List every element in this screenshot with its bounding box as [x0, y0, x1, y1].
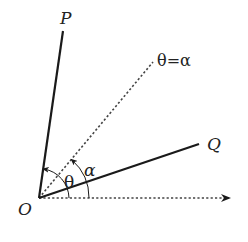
label-theta: θ: [64, 172, 74, 192]
label-O: O: [18, 199, 32, 219]
line-OQ: [39, 144, 199, 198]
label-ray: θ=α: [157, 51, 191, 70]
label-alpha: α: [84, 160, 96, 180]
label-P: P: [59, 8, 72, 28]
polar-diagram: P θ=α Q O θ α: [0, 0, 248, 242]
label-Q: Q: [207, 134, 221, 154]
